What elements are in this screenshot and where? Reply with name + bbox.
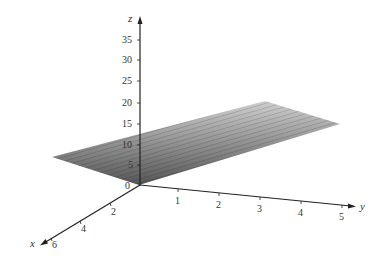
z-tick-5: 5 <box>128 159 133 170</box>
y-axis-label: y <box>359 200 365 212</box>
x-axis: x 2 4 6 <box>29 185 140 250</box>
origin-label: 0 <box>125 180 130 191</box>
z-tick-15: 15 <box>122 118 132 129</box>
y-tick-5: 5 <box>339 211 344 222</box>
y-tick-3: 3 <box>257 203 262 214</box>
x-tick-6: 6 <box>52 239 57 250</box>
z-tick-35: 35 <box>122 34 132 45</box>
y-tick-1: 1 <box>175 195 180 206</box>
plane-surface <box>52 101 340 185</box>
z-axis-label: z <box>127 12 133 24</box>
surface-plot: z 0 5 10 15 20 25 30 35 y 1 2 <box>0 0 383 259</box>
z-tick-30: 30 <box>122 54 132 65</box>
y-tick-4: 4 <box>298 207 303 218</box>
z-tick-10: 10 <box>122 139 132 150</box>
z-tick-20: 20 <box>122 97 132 108</box>
x-tick-2: 2 <box>111 206 116 217</box>
y-tick-2: 2 <box>216 199 221 210</box>
z-tick-25: 25 <box>122 75 132 86</box>
x-axis-label: x <box>29 237 35 249</box>
x-tick-4: 4 <box>81 223 86 234</box>
y-axis: y 1 2 3 4 5 <box>140 185 365 222</box>
